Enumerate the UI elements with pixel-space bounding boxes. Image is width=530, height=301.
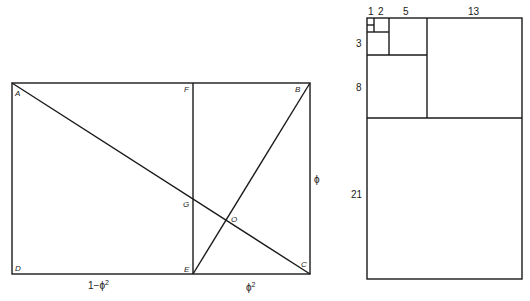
- fibonacci-rectangle-figure: 1 2 5 13 3 8 21: [351, 6, 522, 279]
- point-label-a: A: [14, 89, 20, 98]
- label-1: 1: [368, 6, 374, 17]
- golden-rectangle-figure: A F B G O D E C 1−ϕ2 ϕ2 ϕ: [12, 83, 320, 293]
- diagonal-ac: [12, 83, 310, 274]
- dimension-one-minus-phi-squared: 1−ϕ2: [88, 279, 109, 291]
- dimension-phi: ϕ: [314, 174, 320, 185]
- label-5: 5: [403, 6, 409, 17]
- label-13: 13: [468, 6, 480, 17]
- label-8: 8: [356, 82, 362, 93]
- golden-ratio-diagram: A F B G O D E C 1−ϕ2 ϕ2 ϕ 1 2 5 13 3 8 2…: [0, 0, 530, 301]
- point-label-o: O: [231, 215, 237, 224]
- diagonal-be: [193, 83, 310, 274]
- point-label-c: C: [301, 260, 307, 269]
- point-label-d: D: [15, 264, 21, 273]
- point-label-b: B: [295, 85, 301, 94]
- point-label-f: F: [184, 85, 190, 94]
- dimension-phi-squared: ϕ2: [246, 281, 256, 293]
- fibonacci-outer-rectangle: [367, 18, 522, 279]
- point-label-e: E: [184, 265, 190, 274]
- label-3: 3: [356, 38, 362, 49]
- label-21: 21: [351, 189, 363, 200]
- point-label-g: G: [183, 200, 189, 209]
- label-2: 2: [378, 6, 384, 17]
